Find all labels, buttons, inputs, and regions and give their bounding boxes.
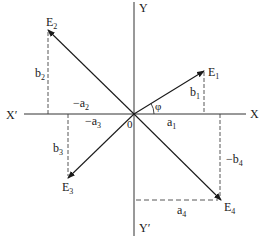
e3-label: E3 [62, 180, 73, 196]
origin-label: 0 [127, 118, 133, 130]
y-axis-label: Y [139, 1, 148, 15]
e4-label: E4 [224, 200, 235, 216]
a4-label: a4 [177, 203, 186, 219]
vector-e2 [48, 30, 134, 114]
a1-label: a1 [167, 115, 176, 131]
x-neg-axis-label: X′ [6, 108, 18, 122]
b2-label: b2 [35, 66, 45, 82]
b1-label: b1 [190, 85, 200, 101]
phi-angle-arc [151, 104, 154, 115]
b3-label: b3 [53, 141, 63, 157]
phi-label: φ [155, 100, 161, 112]
a3-label: −a3 [85, 114, 101, 130]
e1-label: E1 [208, 65, 219, 81]
vector-e4 [134, 114, 221, 200]
y-neg-axis-label: Y′ [139, 221, 151, 235]
x-axis-label: X [250, 107, 259, 121]
vector-diagram: X X′ Y Y′ 0 φ E1 E2 E3 E4 b1 a1 b2 −a2 b… [0, 0, 262, 241]
e2-label: E2 [46, 15, 57, 31]
a2-label: −a2 [73, 96, 89, 112]
b4-label: −b4 [226, 152, 243, 168]
